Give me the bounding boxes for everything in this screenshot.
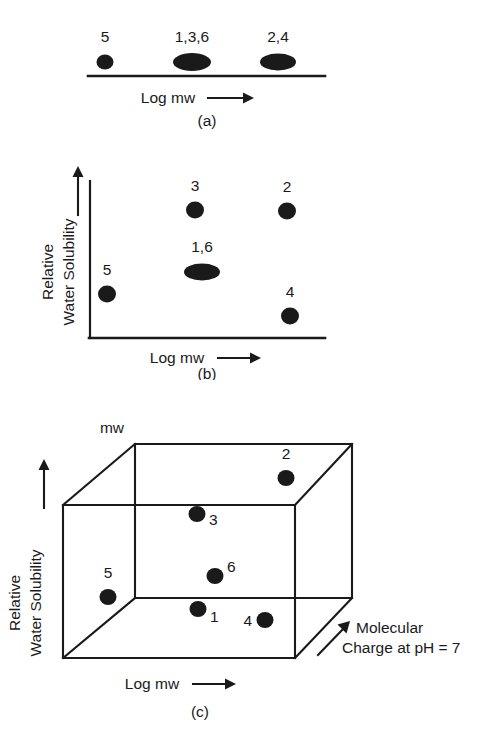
y-axis-arrow-icon — [39, 459, 50, 508]
marker-dot — [278, 203, 296, 220]
y-axis-label: Relative Water Solubility — [6, 549, 44, 656]
marker-dot — [98, 286, 116, 303]
box-edge-top-left — [63, 444, 135, 505]
x-axis-label: Log mw — [125, 675, 180, 692]
box-edge-top-right — [295, 444, 352, 505]
marker-dot — [186, 202, 204, 219]
y-axis-label-line2: Water Solubility — [60, 218, 77, 325]
data-point-a-136: 1,3,6 — [173, 28, 211, 71]
panel-caption: (a) — [198, 112, 217, 129]
data-point-c-2: 2 — [278, 445, 295, 486]
y-axis-arrow-icon — [73, 166, 84, 215]
data-point-b-2: 2 — [278, 178, 296, 220]
data-point-label: 1,6 — [191, 238, 213, 255]
data-point-label: 5 — [101, 28, 110, 45]
data-point-label: 4 — [243, 612, 252, 629]
z-axis-label: Molecular Charge at pH = 7 — [342, 619, 460, 656]
marker-dot — [100, 589, 117, 605]
marker-dot — [184, 264, 220, 281]
panel-a: 5 1,3,6 2,4 Log mw (a) — [0, 0, 491, 130]
data-point-label: 5 — [104, 564, 113, 581]
data-point-label: 3 — [209, 511, 218, 528]
data-point-label: 5 — [103, 261, 112, 278]
data-point-c-3: 3 — [189, 506, 218, 528]
data-point-b-5: 5 — [98, 261, 116, 303]
x-axis-arrow-icon — [193, 679, 236, 690]
x-axis-label: Log mw — [150, 349, 205, 366]
data-point-b-3: 3 — [186, 177, 204, 219]
z-axis-label-line2: Charge at pH = 7 — [342, 639, 460, 656]
panel-b: Relative Water Solubility 3 2 1,6 5 — [0, 130, 491, 380]
marker-dot — [190, 601, 207, 617]
data-point-c-4: 4 — [243, 612, 273, 629]
data-point-label: 2 — [282, 445, 291, 462]
z-axis-label-line1: Molecular — [356, 619, 423, 636]
marker-dot — [97, 55, 114, 70]
data-point-c-6: 6 — [207, 558, 236, 584]
depth-axis-label: mw — [100, 419, 125, 436]
box-back-face — [135, 444, 352, 598]
data-point-c-5: 5 — [100, 564, 117, 605]
data-point-label: 2 — [283, 178, 292, 195]
data-point-a-5: 5 — [97, 28, 114, 70]
data-point-label: 2,4 — [267, 28, 289, 45]
three-d-box — [63, 444, 352, 658]
panel-c: mw Relative Water Solubility 2 3 — [0, 380, 491, 741]
panel-caption: (b) — [198, 365, 217, 380]
marker-dot — [189, 506, 206, 522]
x-axis-label: Log mw — [141, 89, 196, 106]
data-point-label: 1,3,6 — [175, 28, 209, 45]
data-point-label: 4 — [286, 283, 295, 300]
data-point-b-4: 4 — [281, 283, 299, 325]
x-axis-arrow-icon — [218, 353, 261, 364]
data-point-label: 1 — [210, 608, 219, 625]
marker-dot — [260, 54, 296, 71]
y-axis-label-line1: Relative — [39, 244, 56, 300]
data-point-a-24: 2,4 — [260, 28, 296, 71]
box-edge-bottom-left — [63, 598, 135, 658]
marker-dot — [257, 612, 274, 628]
data-point-label: 6 — [227, 558, 236, 575]
data-point-c-1: 1 — [190, 601, 219, 625]
box-front-face — [63, 505, 295, 658]
x-axis-arrow-icon — [208, 93, 254, 104]
figure-root: 5 1,3,6 2,4 Log mw (a) — [0, 0, 491, 741]
marker-dot — [173, 53, 211, 71]
marker-dot — [207, 568, 224, 584]
panel-caption: (c) — [191, 703, 209, 720]
data-point-label: 3 — [191, 177, 200, 194]
y-axis-label-line1: Relative — [6, 575, 23, 631]
marker-dot — [278, 470, 295, 486]
y-axis-label: Relative Water Solubility — [39, 218, 77, 325]
marker-dot — [281, 308, 299, 325]
data-point-b-16: 1,6 — [184, 238, 220, 281]
y-axis-label-line2: Water Solubility — [27, 549, 44, 656]
